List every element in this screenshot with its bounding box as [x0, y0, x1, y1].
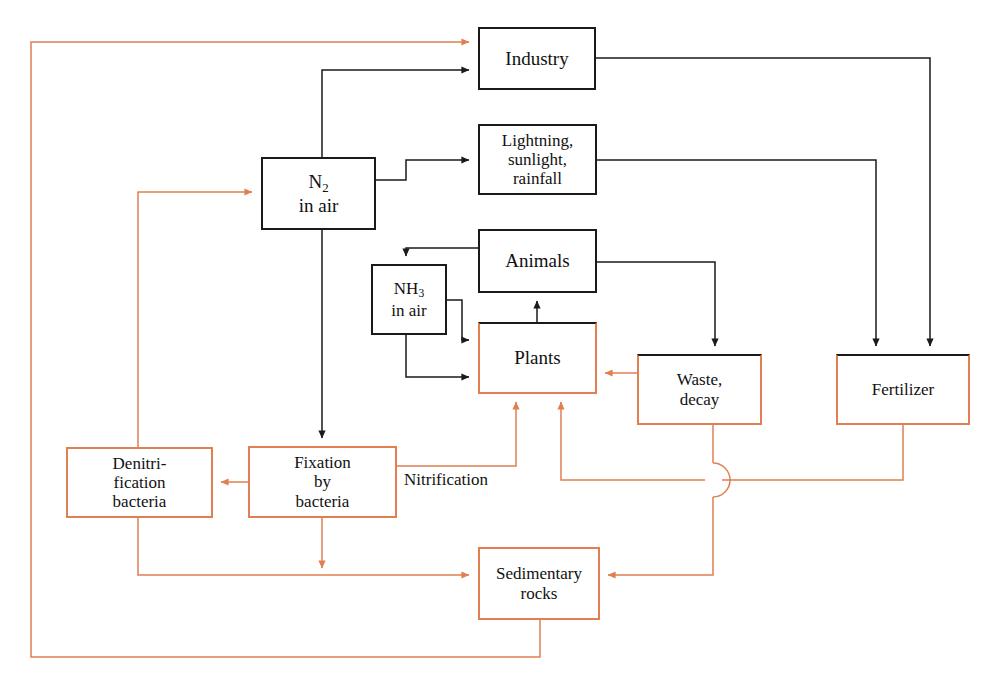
edge-nh3-to-plants-upper — [447, 300, 469, 340]
node-sedimentary-rocks[interactable]: Sedimentary rocks — [478, 547, 600, 620]
node-fertilizer-label: Fertilizer — [868, 380, 938, 399]
node-denitrification-label: Denitri- fication bacteria — [109, 454, 171, 511]
node-lightning-sunlight-rainfall[interactable]: Lightning, sunlight, rainfall — [478, 124, 597, 195]
edge-denitrification-to-n2 — [138, 192, 252, 447]
edge-lightning-to-fertilizer — [597, 160, 876, 346]
edge-fertilizer-run-left — [722, 425, 903, 480]
node-fixation-label: Fixation by bacteria — [290, 453, 355, 510]
node-n2-label: N2in air — [295, 171, 343, 216]
edge-n2-to-lightning — [376, 160, 469, 180]
edge-label-nitrification: Nitrification — [404, 470, 488, 490]
node-nh3-label: NH3in air — [387, 279, 430, 320]
node-nh3-in-air[interactable]: NH3in air — [371, 264, 447, 335]
edge-n2-to-industry — [322, 70, 469, 157]
node-waste-label: Waste, decay — [673, 370, 726, 408]
edge-sedimentary-to-industry — [31, 42, 540, 657]
node-industry[interactable]: Industry — [478, 27, 596, 90]
node-animals-label: Animals — [501, 250, 573, 271]
edge-denitrification-to-sedimentary — [138, 518, 469, 575]
node-plants[interactable]: Plants — [478, 322, 597, 394]
edge-animals-to-waste — [597, 262, 715, 346]
edge-animals-to-nh3 — [406, 248, 478, 256]
node-n2-in-air[interactable]: N2in air — [261, 157, 376, 230]
node-fixation-by-bacteria[interactable]: Fixation by bacteria — [248, 446, 397, 518]
node-industry-label: Industry — [501, 48, 572, 69]
edge-fixation-to-plants-nitrification — [397, 402, 516, 466]
node-lightning-label: Lightning, sunlight, rainfall — [498, 131, 577, 188]
node-waste-decay[interactable]: Waste, decay — [637, 354, 762, 425]
nitrogen-cycle-diagram: Industry Lightning, sunlight, rainfall N… — [0, 0, 1003, 687]
edge-nh3-to-plants-lower — [406, 335, 469, 377]
node-plants-label: Plants — [510, 347, 564, 368]
node-animals[interactable]: Animals — [478, 229, 597, 293]
node-denitrification-bacteria[interactable]: Denitri- fication bacteria — [66, 447, 213, 518]
node-sedimentary-label: Sedimentary rocks — [492, 564, 586, 602]
node-fertilizer[interactable]: Fertilizer — [836, 354, 970, 425]
edge-waste-to-sedimentary — [608, 497, 713, 575]
edge-industry-to-fertilizer — [596, 58, 930, 346]
